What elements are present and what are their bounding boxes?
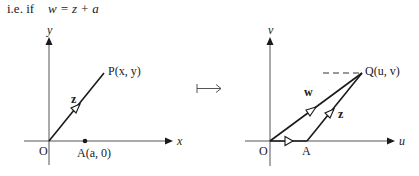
x-axis-label: x [176, 134, 183, 148]
vector-w-arrowhead-icon [306, 107, 316, 116]
point-a-label: A(a, 0) [77, 146, 111, 160]
vector-a-arrowhead-icon [285, 137, 293, 146]
origin-label-right: O [259, 144, 268, 158]
origin-label: O [39, 144, 48, 158]
y-axis-arrow-icon [46, 37, 53, 45]
transformation-diagram: y x O P(x, y) A(a, 0) z v u O A Q(u [0, 0, 419, 176]
u-axis-label: u [399, 134, 405, 148]
y-axis-label: y [46, 23, 53, 37]
right-plane: v u O A Q(u, v) w z [245, 23, 405, 166]
point-a-label-right: A [302, 144, 311, 158]
v-axis-label: v [268, 23, 274, 37]
vector-z-label: z [71, 92, 77, 106]
mapsto-arrow-icon [197, 84, 221, 93]
point-p-label: P(x, y) [108, 64, 141, 78]
left-plane: y x O P(x, y) A(a, 0) z [24, 23, 183, 165]
x-axis-arrow-icon [165, 138, 173, 145]
point-q-label: Q(u, v) [365, 64, 400, 78]
u-axis-arrow-icon [387, 138, 395, 145]
vector-w-label: w [304, 85, 313, 99]
point-a-dot [83, 139, 88, 144]
v-axis-arrow-icon [267, 37, 274, 45]
vector-z-label-right: z [338, 107, 344, 121]
